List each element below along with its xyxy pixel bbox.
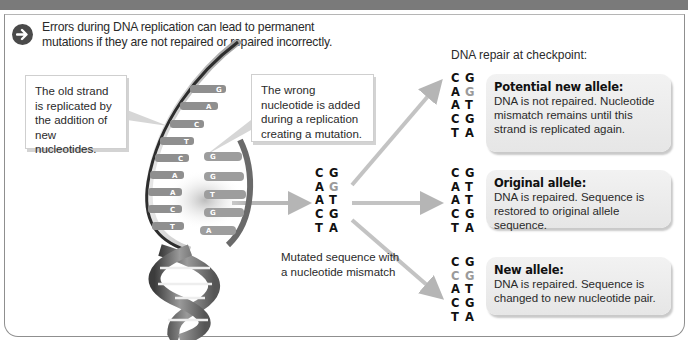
callout-wrong-nucleotide: The wrong nucleotide is added during a r… xyxy=(251,74,374,142)
helix-label: T xyxy=(184,138,189,146)
helix-label: C xyxy=(178,155,183,163)
base-pair-mismatch: AG xyxy=(315,181,337,195)
outcome-text: DNA is not repaired. Nucleotide mismatch… xyxy=(494,94,663,136)
callout-old-strand: The old strand is replicated by the addi… xyxy=(25,75,127,149)
outcome-potential-new-allele: Potential new allele: DNA is not repaire… xyxy=(486,74,671,152)
helix-label: C xyxy=(170,206,175,214)
base-pair: CG xyxy=(315,167,337,181)
helix-label: C xyxy=(194,121,199,129)
helix-label: A xyxy=(172,172,178,180)
outcome-text: DNA is repaired. Sequence is changed to … xyxy=(494,277,663,305)
outcome-title: New allele: xyxy=(494,263,663,277)
outcome-3-sequence: CG CG AT CG TA xyxy=(451,256,473,325)
helix-new-label: G xyxy=(210,173,216,181)
outcome-title: Potential new allele: xyxy=(494,80,663,94)
helix-label: T xyxy=(170,223,175,231)
helix-new-label: T xyxy=(210,191,215,199)
helix-label: A xyxy=(206,103,212,111)
helix-new-label: A xyxy=(206,227,212,235)
outcome-new-allele: New allele: DNA is repaired. Sequence is… xyxy=(486,257,671,315)
mutated-caption: Mutated sequence with a nucleotide misma… xyxy=(281,250,401,279)
outcome-2-sequence: CG AT AT CG TA xyxy=(451,167,473,236)
helix-label: G xyxy=(216,86,222,94)
base-pair: TA xyxy=(315,222,337,236)
outcome-original-allele: Original allele: DNA is repaired. Sequen… xyxy=(486,170,671,228)
outcome-text: DNA is repaired. Sequence is restored to… xyxy=(494,190,663,232)
base-pair: AT xyxy=(315,194,337,208)
helix-new-label: G xyxy=(210,209,216,217)
outcome-title: Original allele: xyxy=(494,176,663,190)
repair-title: DNA repair at checkpoint: xyxy=(451,48,587,62)
helix-label: A xyxy=(170,189,176,197)
helix-new-label: G xyxy=(210,153,216,161)
mutated-sequence: CG AG AT CG TA xyxy=(315,167,337,236)
outcome-1-sequence: CG AG AT CG TA xyxy=(451,72,473,141)
base-pair: CG xyxy=(315,208,337,222)
